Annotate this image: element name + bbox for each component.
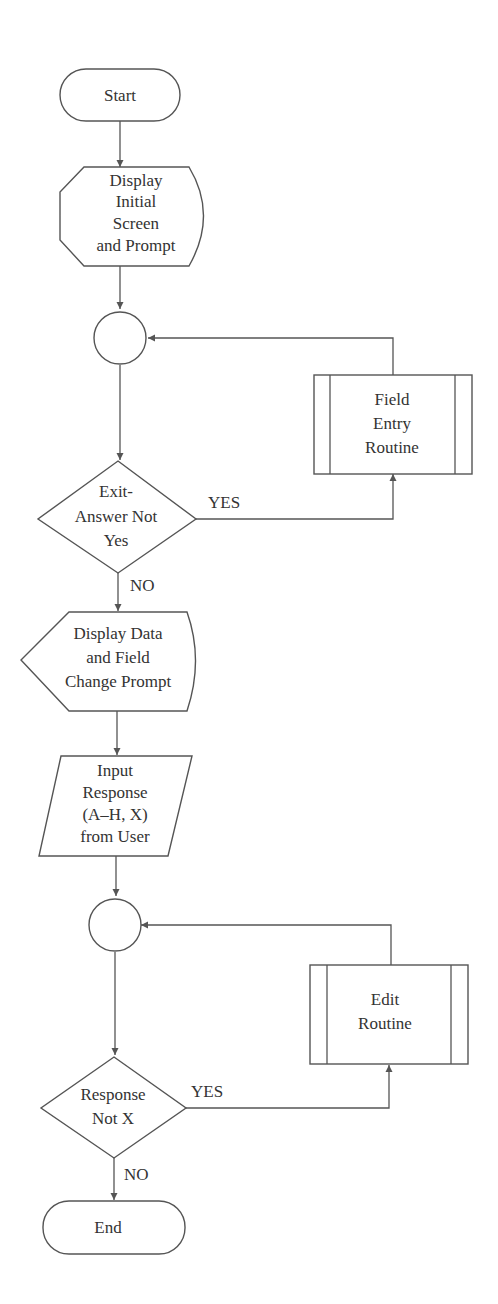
node-connector-2	[89, 899, 141, 951]
node-label: End	[94, 1218, 122, 1237]
node-label-line-1: Field	[375, 390, 410, 409]
node-label: Start	[104, 86, 136, 105]
edge-field-entry-to-connector1	[148, 338, 393, 375]
node-label-line-4: and Prompt	[97, 236, 176, 255]
node-label-line-3: Screen	[113, 214, 160, 233]
edge-label-response-yes: YES	[191, 1082, 223, 1101]
node-field-entry-routine: Field Entry Routine	[314, 375, 472, 474]
node-display-data: Display Data and Field Change Prompt	[21, 612, 196, 711]
node-label-line-1: Response	[80, 1085, 145, 1104]
flowchart: YES NO YES NO Start Display Initial Scre…	[0, 0, 498, 1304]
node-label-line-4: from User	[80, 827, 150, 846]
node-label-line-3: Yes	[104, 531, 129, 550]
node-label-line-3: (A–H, X)	[82, 805, 147, 824]
node-end: End	[43, 1201, 185, 1254]
node-label-line-3: Routine	[365, 438, 419, 457]
node-label-line-2: Routine	[358, 1014, 412, 1033]
node-label-line-3: Change Prompt	[65, 672, 172, 691]
edge-edit-routine-to-connector2	[141, 925, 391, 965]
node-label-line-2: Not X	[92, 1109, 134, 1128]
node-start: Start	[60, 69, 180, 121]
node-label-line-1: Exit-	[99, 482, 133, 501]
node-label-line-1: Edit	[371, 990, 400, 1009]
node-response-decision: Response Not X	[41, 1057, 186, 1158]
node-label-line-2: Answer Not	[75, 507, 158, 526]
node-label-line-1: Input	[97, 761, 133, 780]
node-connector-1	[94, 312, 146, 364]
node-label-line-2: Response	[82, 783, 147, 802]
node-label-line-2: Entry	[373, 414, 411, 433]
node-label-line-2: Initial	[116, 192, 157, 211]
edge-label-exit-yes: YES	[208, 493, 240, 512]
node-label-line-1: Display	[110, 171, 163, 190]
node-display-initial: Display Initial Screen and Prompt	[60, 167, 204, 266]
node-label-line-1: Display Data	[73, 624, 163, 643]
edge-label-exit-no: NO	[130, 576, 155, 595]
decision-shape	[41, 1057, 186, 1158]
node-exit-decision: Exit- Answer Not Yes	[38, 461, 196, 573]
edge-label-response-no: NO	[124, 1165, 149, 1184]
node-input-response: Input Response (A–H, X) from User	[39, 756, 192, 856]
node-label-line-2: and Field	[86, 648, 150, 667]
node-edit-routine: Edit Routine	[310, 965, 468, 1064]
